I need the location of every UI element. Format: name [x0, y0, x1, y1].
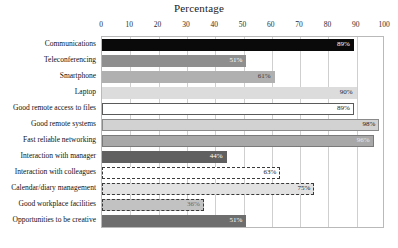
bar-value-label: 44% — [210, 153, 226, 160]
bar-row: 63% — [102, 167, 383, 178]
bar: 61% — [102, 71, 275, 82]
bar-row: 44% — [102, 151, 383, 162]
category-label: Good remote access to files — [13, 104, 96, 112]
bar-value-label: 63% — [263, 169, 279, 176]
x-tick-label: 30 — [182, 20, 190, 29]
bar: 96% — [102, 135, 374, 146]
bar-row: 90% — [102, 87, 383, 98]
bar-row: 75% — [102, 183, 383, 194]
bar-row: 96% — [102, 135, 383, 146]
plot-area: 89%51%61%90%89%98%96%44%63%75%36%51% — [101, 36, 384, 228]
bar-value-label: 89% — [337, 105, 353, 112]
category-label: Calendar/diary management — [11, 184, 96, 192]
x-tick-label: 70 — [295, 20, 303, 29]
bar-row: 98% — [102, 119, 383, 130]
x-tick-label: 60 — [267, 20, 275, 29]
category-label: Teleconferencing — [44, 56, 96, 64]
bar-value-label: 98% — [362, 121, 378, 128]
category-axis-labels: CommunicationsTeleconferencingSmartphone… — [0, 36, 99, 228]
bar-value-label: 75% — [297, 185, 313, 192]
bar-row: 51% — [102, 215, 383, 226]
x-tick-label: 10 — [126, 20, 134, 29]
bar: 98% — [102, 119, 379, 130]
category-label: Fast reliable networking — [23, 136, 96, 144]
x-tick-label: 100 — [378, 20, 389, 29]
chart-title: Percentage — [0, 2, 398, 14]
bar-row: 51% — [102, 55, 383, 66]
bar-value-label: 90% — [340, 89, 356, 96]
category-label: Interaction with manager — [21, 152, 96, 160]
category-label: Communications — [45, 40, 96, 48]
bar-value-label: 36% — [187, 201, 203, 208]
bar-chart: Percentage 0102030405060708090100 Commun… — [0, 0, 398, 248]
x-axis-tick-labels: 0102030405060708090100 — [101, 20, 384, 34]
category-label: Interaction with colleagues — [15, 168, 96, 176]
bar-value-label: 89% — [337, 41, 353, 48]
x-tick-label: 90 — [352, 20, 360, 29]
bar: 36% — [102, 199, 204, 210]
x-tick-label: 50 — [239, 20, 247, 29]
x-tick-label: 0 — [99, 20, 103, 29]
bar: 44% — [102, 151, 227, 162]
bar: 63% — [102, 167, 280, 178]
x-tick-label: 20 — [154, 20, 162, 29]
category-label: Good workplace facilities — [19, 200, 96, 208]
category-label: Laptop — [75, 88, 96, 96]
bar-row: 89% — [102, 39, 383, 50]
bar: 51% — [102, 55, 246, 66]
category-label: Good remote systems — [31, 120, 96, 128]
bar: 90% — [102, 87, 357, 98]
bar: 51% — [102, 215, 246, 226]
bar-value-label: 96% — [357, 137, 373, 144]
x-tick-label: 80 — [324, 20, 332, 29]
bar-rows: 89%51%61%90%89%98%96%44%63%75%36%51% — [102, 37, 383, 227]
bar: 89% — [102, 39, 354, 50]
category-label: Smartphone — [60, 72, 96, 80]
category-label: Opportunities to be creative — [12, 216, 96, 224]
bar-value-label: 51% — [229, 57, 245, 64]
bar: 75% — [102, 183, 314, 194]
bar-row: 61% — [102, 71, 383, 82]
bar-value-label: 61% — [258, 73, 274, 80]
x-tick-label: 40 — [210, 20, 218, 29]
bar-value-label: 51% — [229, 217, 245, 224]
bar: 89% — [102, 103, 354, 114]
bar-row: 89% — [102, 103, 383, 114]
bar-row: 36% — [102, 199, 383, 210]
